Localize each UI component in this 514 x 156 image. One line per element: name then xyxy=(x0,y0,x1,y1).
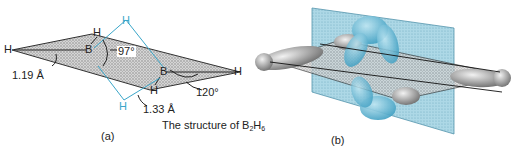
atom-h-bottom-terminal: H xyxy=(150,85,158,96)
diagram-graphics xyxy=(0,0,514,156)
b2h6-figure: H B H H B H H H 97° 120° 1.19 Å 1.33 Å T… xyxy=(0,0,514,156)
figure-caption: The structure of B2H6 xyxy=(162,119,265,132)
bond-bridge-length-label: 1.33 Å xyxy=(143,104,175,115)
panel-a-label: (a) xyxy=(101,131,114,142)
atom-b-right: B xyxy=(160,66,167,77)
panel-b-label: (b) xyxy=(331,135,344,146)
atom-h-right: H xyxy=(234,66,242,77)
atom-h-bridge-bottom: H xyxy=(119,101,127,112)
atom-h-bridge-top: H xyxy=(122,15,130,26)
angle-terminal-label: 120° xyxy=(196,87,219,98)
atom-h-left: H xyxy=(4,44,12,55)
bond-terminal-length-label: 1.19 Å xyxy=(12,70,44,81)
atom-b-left: B xyxy=(85,44,92,55)
angle-bridge-label: 97° xyxy=(117,46,136,57)
atom-h-top-terminal: H xyxy=(93,27,101,38)
orbital-model-b xyxy=(255,8,511,134)
